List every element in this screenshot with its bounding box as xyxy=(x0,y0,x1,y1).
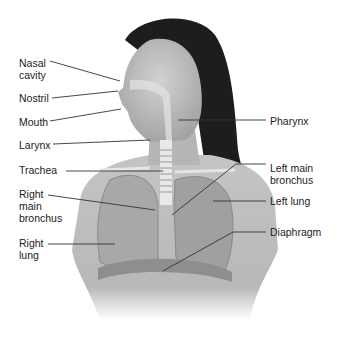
leader-line-right-main-bronchus xyxy=(48,195,155,210)
label-nasal-cavity: Nasal cavity xyxy=(19,57,46,81)
respiratory-diagram: Nasal cavityNostrilMouthLarynxTracheaRig… xyxy=(0,0,337,342)
leader-line-left-main-bronchus xyxy=(172,164,266,215)
label-diaphragm: Diaphragm xyxy=(270,226,321,238)
label-larynx: Larynx xyxy=(19,139,51,151)
label-left-lung: Left lung xyxy=(270,195,310,207)
leader-line-mouth xyxy=(50,109,121,121)
label-left-main-bronchus: Left main bronchus xyxy=(270,162,313,186)
label-nostril: Nostril xyxy=(19,92,49,104)
leader-line-diaphragm xyxy=(163,232,266,271)
label-right-lung: Right lung xyxy=(19,237,44,261)
label-pharynx: Pharynx xyxy=(270,115,309,127)
leader-line-nostril xyxy=(52,91,118,98)
label-right-main-bronchus: Right main bronchus xyxy=(19,188,62,224)
leader-line-larynx xyxy=(53,140,150,144)
leader-line-nasal-cavity xyxy=(50,61,120,81)
label-mouth: Mouth xyxy=(19,116,48,128)
label-trachea: Trachea xyxy=(19,164,57,176)
